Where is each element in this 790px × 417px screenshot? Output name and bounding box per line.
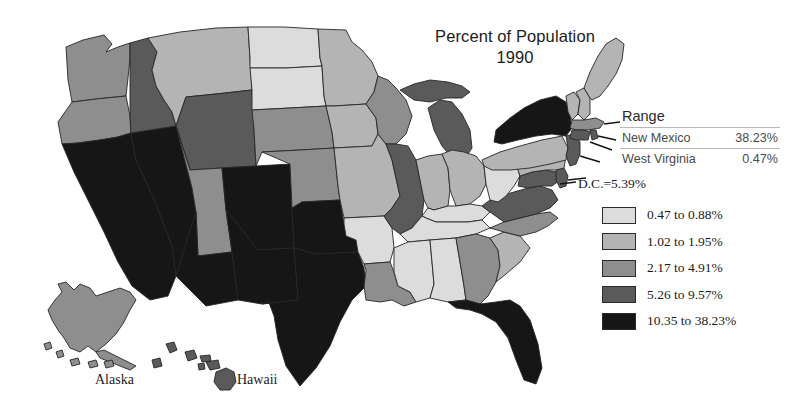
hawaii-island-small [152,358,162,368]
legend-item: 2.17 to 4.91% [602,256,736,280]
hawaii-island-kauai [166,342,177,353]
legend-label: 0.47 to 0.88% [647,207,723,223]
legend-label: 5.26 to 9.57% [647,287,723,303]
leader-line-massachusetts [604,122,620,124]
alaska-island-5 [104,360,114,368]
legend-swatch [602,313,636,330]
legend-swatch [602,260,636,277]
state-florida [448,300,542,384]
range-table-header: Range [620,108,780,127]
state-minnesota [318,29,378,106]
leader-line-rhode-island [598,136,616,140]
hawaii-island-hawaii [214,368,236,390]
state-massachusetts [570,118,604,130]
leader-line-new-jersey [580,156,600,162]
range-row-state: West Virginia [622,152,696,166]
legend-item: 10.35 to 38.23% [602,309,736,333]
alaska-island-3 [70,358,80,366]
state-rhode-island [590,130,598,140]
state-alaska [48,282,136,352]
hawaii-island-maui [206,360,220,370]
range-row-value: 38.23% [735,131,778,145]
legend-swatch [602,207,636,224]
hawaii-island-molokai [200,355,211,362]
legend-item: 5.26 to 9.57% [602,283,736,307]
state-north-dakota [248,27,322,68]
legend-label: 10.35 to 38.23% [647,313,736,329]
legend-item: 1.02 to 1.95% [602,230,736,254]
state-wyoming [176,90,256,170]
page-title: Percent of Population 1990 [410,26,620,68]
leader-line-connecticut [590,142,612,150]
state-delaware [556,168,568,188]
legend-label: 1.02 to 1.95% [647,234,723,250]
table-row: West Virginia 0.47% [620,148,780,169]
alaska-island-4 [88,360,98,368]
state-michigan-upper [400,80,470,102]
alaska-panhandle [96,350,136,370]
dc-annotation: D.C.=5.39% [578,176,646,192]
hawaii-island-lanai [198,363,205,370]
alaska-island-1 [44,342,52,350]
legend-item: 0.47 to 0.88% [602,203,736,227]
state-south-dakota [250,66,326,110]
alaska-island-2 [56,350,64,358]
legend-swatch [602,286,636,303]
state-washington [66,35,130,102]
range-table: Range New Mexico 38.23% West Virginia 0.… [620,108,780,169]
title-line-1: Percent of Population [410,26,620,47]
choropleth-map-figure: Percent of Population 1990 Range New Mex… [0,0,790,417]
range-row-state: New Mexico [622,131,691,145]
hawaii-island-oahu [185,350,197,361]
alaska-label: Alaska [95,372,134,388]
legend-swatch [602,233,636,250]
state-connecticut [570,130,590,140]
title-line-2: 1990 [410,47,620,68]
range-row-value: 0.47% [742,152,778,166]
hawaii-label: Hawaii [237,372,277,388]
legend-label: 2.17 to 4.91% [647,260,723,276]
table-row: New Mexico 38.23% [620,127,780,148]
legend: 0.47 to 0.88% 1.02 to 1.95% 2.17 to 4.91… [602,203,736,336]
